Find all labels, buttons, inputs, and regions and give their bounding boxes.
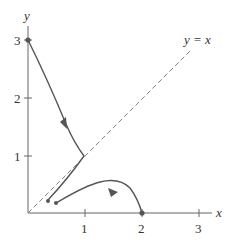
x-tick-label-1: 1: [81, 221, 88, 236]
y-tick-label-2: 2: [14, 91, 21, 106]
y-axis-label: y: [22, 8, 30, 23]
arrow-icon-curve-2: [108, 188, 118, 197]
curve-2-start-point: [54, 201, 58, 205]
trajectory-curve-2: [56, 180, 142, 213]
x-axis-label: x: [215, 205, 222, 220]
curve-1-end-point: [46, 199, 50, 203]
x-tick-label-2: 2: [138, 221, 145, 236]
equilibrium-point-0-3: [25, 37, 30, 42]
x-tick-label-3: 3: [195, 221, 202, 236]
y-equals-x-label: y = x: [182, 32, 211, 47]
trajectory-curve-1: [28, 40, 84, 200]
y-tick-label-1: 1: [14, 149, 21, 164]
equilibrium-point-2-0: [139, 210, 144, 215]
y-tick-label-3: 3: [14, 33, 21, 48]
phase-diagram: 1 2 3 1 2 3 x y y = x: [0, 0, 230, 240]
